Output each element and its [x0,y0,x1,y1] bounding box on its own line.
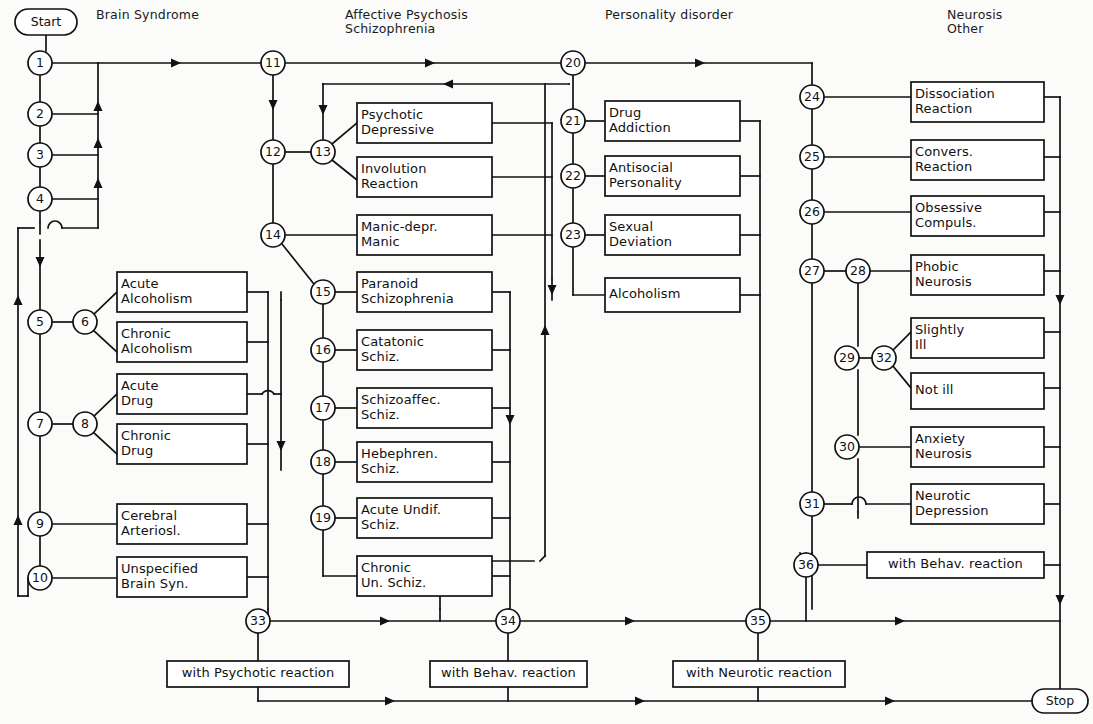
node-n23[interactable] [561,223,585,247]
column-header-personality: Personality disorder [605,8,733,22]
terminal-stop[interactable] [1032,689,1088,713]
node-n9[interactable] [28,512,52,536]
box-obsessive-compuls[interactable] [911,196,1044,236]
node-n17[interactable] [311,396,335,420]
box-phobic-neurosis[interactable] [911,255,1044,295]
node-n10[interactable] [28,566,52,590]
node-n25[interactable] [800,145,824,169]
node-n5[interactable] [28,310,52,334]
node-n31[interactable] [800,492,824,516]
box-anxiety-neurosis[interactable] [911,427,1044,467]
column-header-affective: Affective Psychosis Schizophrenia [345,8,468,36]
node-n8[interactable] [73,412,97,436]
box-catatonic-schiz[interactable] [357,330,492,370]
node-n27[interactable] [800,259,824,283]
node-n21[interactable] [561,109,585,133]
node-n14[interactable] [261,223,285,247]
node-n20[interactable] [561,51,585,75]
node-n11[interactable] [261,51,285,75]
box-alcoholism[interactable] [605,278,740,312]
box-slightly-ill[interactable] [911,318,1044,358]
node-n12[interactable] [261,140,285,164]
box-acute-undif-schiz[interactable] [357,498,492,538]
box-paranoid-schiz[interactable] [357,272,492,312]
node-n6[interactable] [73,310,97,334]
node-n16[interactable] [311,338,335,362]
box-manic-depr-manic[interactable] [357,215,492,255]
box-34-with-behav[interactable] [430,661,587,687]
node-n18[interactable] [311,450,335,474]
box-hebephren-schiz[interactable] [357,442,492,482]
box-35-with-neurotic[interactable] [673,661,845,687]
flowchart-canvas: Brain Syndrome Affective Psychosis Schiz… [0,0,1093,724]
box-not-ill[interactable] [911,373,1044,409]
flowchart-graphics [0,0,1093,724]
box-chronic-drug[interactable] [117,424,247,464]
node-n26[interactable] [800,200,824,224]
box-33-with-psychotic[interactable] [167,661,349,687]
node-n33[interactable] [246,609,270,633]
box-schizoaffec-schiz[interactable] [357,388,492,428]
box-psychotic-depressive[interactable] [357,103,492,143]
node-n29[interactable] [835,346,859,370]
terminal-start[interactable] [15,9,77,35]
node-n4[interactable] [28,187,52,211]
box-drug-addiction[interactable] [605,101,740,141]
box-acute-drug[interactable] [117,374,247,414]
box-36-with-behav[interactable] [867,552,1044,578]
node-n3[interactable] [28,143,52,167]
box-chronic-alcoholism[interactable] [117,322,247,362]
box-acute-alcoholism[interactable] [117,272,247,312]
box-convers-reaction[interactable] [911,140,1044,180]
box-involution-reaction[interactable] [357,157,492,197]
column-header-brain-syndrome: Brain Syndrome [96,8,199,22]
node-n28[interactable] [846,259,870,283]
node-n36[interactable] [794,553,818,577]
column-header-neurosis: Neurosis Other [947,8,1003,36]
node-n2[interactable] [28,102,52,126]
node-n7[interactable] [28,412,52,436]
node-layer [15,9,1088,713]
box-antisocial-pers[interactable] [605,156,740,196]
node-n22[interactable] [561,164,585,188]
box-sexual-deviation[interactable] [605,215,740,255]
node-n13[interactable] [311,140,335,164]
node-n35[interactable] [746,609,770,633]
box-dissociation-react[interactable] [911,82,1044,122]
node-n24[interactable] [800,85,824,109]
node-n30[interactable] [835,435,859,459]
box-chronic-un-schiz[interactable] [357,556,492,596]
node-n34[interactable] [496,609,520,633]
node-n1[interactable] [28,51,52,75]
node-n15[interactable] [311,280,335,304]
node-n19[interactable] [311,506,335,530]
node-n32[interactable] [872,346,896,370]
box-cerebral-arteriosl[interactable] [117,504,247,544]
box-unspecified-brain[interactable] [117,557,247,597]
box-neurotic-depression[interactable] [911,484,1044,524]
edge-layer [14,35,1065,706]
